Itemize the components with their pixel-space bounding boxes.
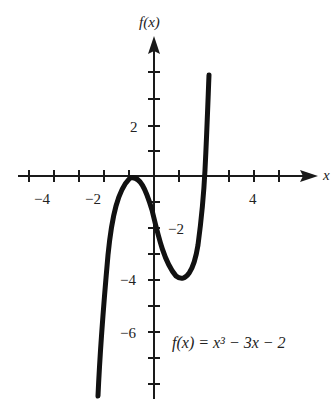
x-tick-label: −4	[34, 191, 50, 207]
y-tick-label: −4	[120, 272, 136, 288]
y-tick-label: −2	[168, 221, 184, 237]
x-tick-label: 4	[249, 191, 257, 207]
y-tick-label: −6	[120, 325, 136, 341]
x-axis-label: x	[322, 167, 330, 183]
function-graph: −4 −2 4 x 2 −2 −4 −6 f(x) f(x) = x³ − 3x…	[0, 0, 335, 399]
y-tick-label: 2	[130, 119, 138, 135]
x-axis: −4 −2 4 x	[18, 167, 330, 207]
y-axis-label: f(x)	[139, 14, 160, 31]
function-equation: f(x) = x³ − 3x − 2	[172, 334, 286, 352]
x-tick-label: −2	[85, 191, 101, 207]
